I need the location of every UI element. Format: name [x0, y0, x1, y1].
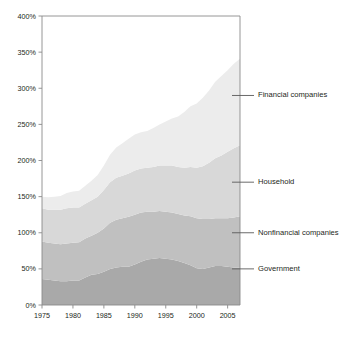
y-tick-label: 150%: [18, 192, 37, 201]
stacked-area-chart: 0%50%100%150%200%250%300%350%400% 197519…: [0, 0, 348, 342]
legend-label-government: Government: [258, 264, 301, 273]
y-tick-label: 350%: [18, 48, 37, 57]
x-axis-ticks: 1975198019851990199520002005: [34, 305, 236, 320]
area-bands: [42, 59, 240, 305]
chart-legend: Financial companiesHouseholdNonfinancial…: [232, 90, 339, 272]
x-tick-label: 2000: [189, 311, 205, 320]
y-tick-label: 300%: [18, 84, 37, 93]
y-axis-ticks: 0%50%100%150%200%250%300%350%400%: [18, 12, 42, 310]
x-tick-label: 1980: [65, 311, 81, 320]
y-tick-label: 50%: [22, 264, 37, 273]
legend-label-household: Household: [258, 177, 294, 186]
y-tick-label: 250%: [18, 120, 37, 129]
legend-label-financial-companies: Financial companies: [258, 90, 327, 99]
y-tick-label: 400%: [18, 12, 37, 21]
y-tick-label: 100%: [18, 228, 37, 237]
x-tick-label: 1990: [127, 311, 143, 320]
y-tick-label: 200%: [18, 156, 37, 165]
y-tick-label: 0%: [26, 301, 37, 310]
legend-label-nonfinancial-companies: Nonfinancial companies: [258, 228, 339, 237]
x-tick-label: 2005: [220, 311, 236, 320]
chart-canvas: 0%50%100%150%200%250%300%350%400% 197519…: [0, 0, 348, 342]
x-tick-label: 1985: [96, 311, 112, 320]
x-tick-label: 1995: [158, 311, 174, 320]
x-tick-label: 1975: [34, 311, 50, 320]
